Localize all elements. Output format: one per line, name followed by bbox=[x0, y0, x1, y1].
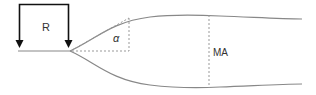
alpha-hypotenuse-dashed bbox=[72, 18, 129, 50]
lower-wall-curve bbox=[70, 51, 302, 88]
ma-label: MA bbox=[213, 47, 228, 58]
arrow-right-icon bbox=[65, 40, 73, 48]
upper-wall-curve bbox=[70, 15, 302, 51]
nozzle-diagram: R α MA bbox=[0, 0, 316, 95]
r-label: R bbox=[42, 21, 50, 33]
ma-marker: MA bbox=[209, 15, 228, 88]
r-bracket: R bbox=[16, 5, 73, 49]
arrow-left-icon bbox=[16, 40, 24, 48]
alpha-label: α bbox=[113, 32, 120, 44]
